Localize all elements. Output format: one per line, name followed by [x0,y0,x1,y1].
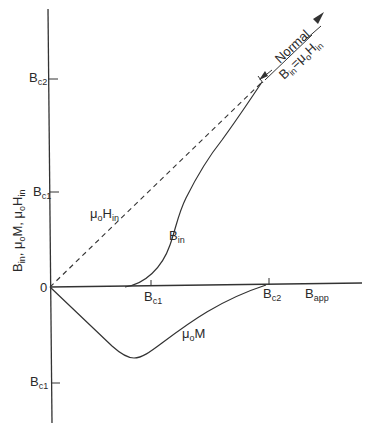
magnetization-diagram: Normal Bin=μoHin Bin, μoM, μoHin Bc2 Bc1… [0,0,368,434]
x-axis-title: Bapp [305,286,329,303]
bin-curve [125,82,262,287]
x-label-bc2: Bc2 [263,286,281,303]
bin-label: Bin [169,228,185,245]
y-axis [48,9,52,423]
origin-label: 0 [40,280,47,295]
svg-text:Bin, μoM, μoHin: Bin, μoM, μoHin [10,190,27,272]
y-label-bc2: Bc2 [29,70,47,87]
muH-dashed-line [50,82,262,287]
muH-label: μoHin [90,206,119,223]
x-label-bc1: Bc1 [144,289,162,306]
y-label-neg-bc1: Bc1 [30,374,48,391]
x-axis [50,283,362,287]
muM-label: μoM [182,326,205,343]
normal-arrow-right-head [313,12,324,24]
y-label-bc1: Bc1 [33,184,51,201]
y-axis-title: Bin, μoM, μoHin [10,190,27,272]
